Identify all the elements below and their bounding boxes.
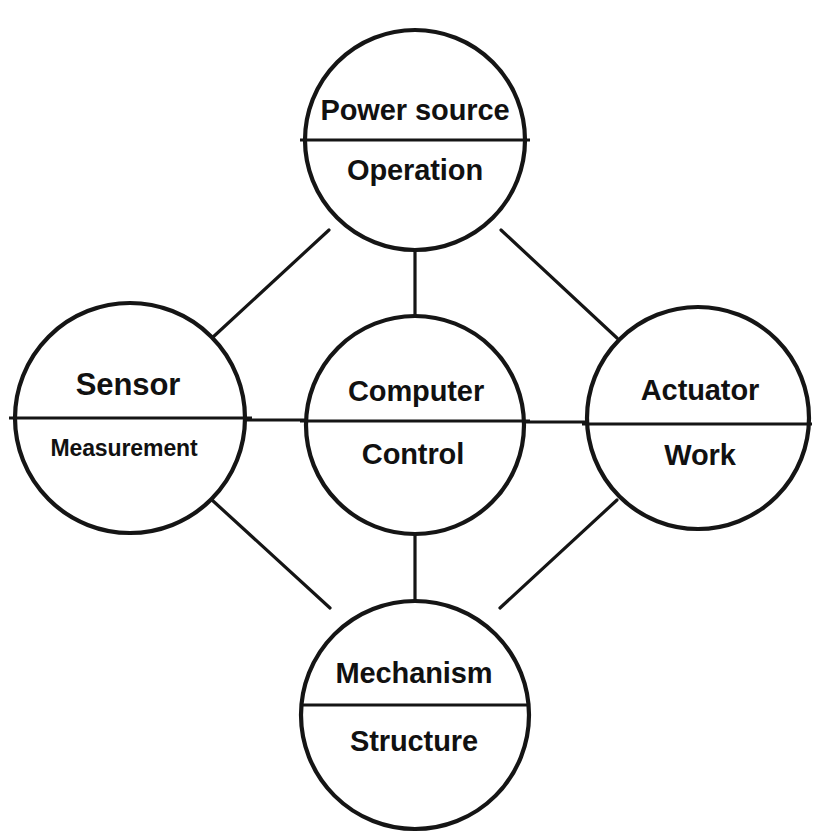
power-source-top-label: Power source: [321, 94, 510, 126]
connector-sensor-power-source: [212, 230, 329, 338]
computer-circle[interactable]: [306, 316, 524, 534]
computer-top-label: Computer: [348, 375, 484, 407]
power-source-bottom-label: Operation: [347, 154, 483, 186]
actuator-top-label: Actuator: [641, 374, 759, 406]
actuator-circle[interactable]: [587, 307, 809, 529]
node-power-source[interactable]: Power source Operation: [300, 30, 530, 250]
connector-actuator-mechanism: [500, 500, 617, 608]
node-mechanism[interactable]: Mechanism Structure: [300, 601, 530, 829]
mechanism-bottom-label: Structure: [350, 725, 478, 757]
mechatronics-diagram: Power source Operation Sensor Measuremen…: [0, 0, 818, 835]
diagram-canvas: Power source Operation Sensor Measuremen…: [0, 0, 818, 835]
node-computer[interactable]: Computer Control: [300, 316, 530, 534]
node-actuator[interactable]: Actuator Work: [582, 307, 812, 529]
sensor-top-label: Sensor: [76, 367, 181, 402]
actuator-bottom-label: Work: [664, 439, 737, 471]
mechanism-circle[interactable]: [301, 601, 529, 829]
connector-power-source-actuator: [501, 230, 617, 338]
computer-bottom-label: Control: [362, 438, 464, 470]
connector-sensor-mechanism: [212, 500, 330, 608]
sensor-bottom-label: Measurement: [50, 435, 198, 461]
node-sensor[interactable]: Sensor Measurement: [9, 303, 252, 533]
mechanism-top-label: Mechanism: [335, 657, 492, 689]
